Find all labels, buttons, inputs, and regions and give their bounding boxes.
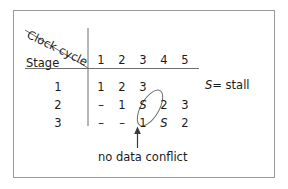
cell-r3c2: – [116, 118, 128, 130]
cell-r3c4-stall: S [158, 118, 170, 130]
row-label-stage-3: 3 [52, 118, 64, 130]
figure-root: Clock cycle Stage 1 2 3 4 5 1 2 3 1 2 3 … [0, 0, 288, 189]
cell-r3c5: 2 [179, 118, 191, 130]
cell-r2c1: – [95, 100, 107, 112]
cell-r3c3: 1 [137, 118, 149, 130]
cell-r2c2: 1 [116, 100, 128, 112]
cell-r1c3: 3 [137, 82, 149, 94]
cell-r2c5: 3 [179, 100, 191, 112]
cell-r1c2: 2 [116, 82, 128, 94]
column-header-5: 5 [179, 55, 191, 67]
cell-r2c4: 2 [158, 100, 170, 112]
stage-axis-label: Stage [26, 58, 59, 70]
column-header-4: 4 [158, 55, 170, 67]
column-header-2: 2 [116, 55, 128, 67]
legend: S= stall [205, 80, 250, 92]
row-label-stage-1: 1 [52, 82, 64, 94]
cell-r3c1: – [95, 118, 107, 130]
column-header-1: 1 [95, 55, 107, 67]
cell-r2c3-stall: S [137, 100, 149, 112]
legend-equals: = [212, 78, 222, 92]
row-label-stage-2: 2 [52, 100, 64, 112]
cell-r1c1: 1 [95, 82, 107, 94]
no-data-conflict-caption: no data conflict [98, 152, 187, 164]
legend-meaning: stall [226, 78, 250, 92]
column-header-3: 3 [137, 55, 149, 67]
